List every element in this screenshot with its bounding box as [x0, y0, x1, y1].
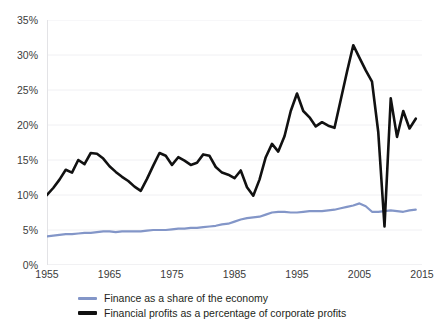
y-tick-label: 15% [17, 155, 38, 166]
line-chart-svg [47, 20, 422, 265]
x-tick-label: 1965 [98, 268, 121, 281]
chart-legend: Finance as a share of the economyFinanci… [78, 291, 418, 321]
x-tick-label: 2005 [348, 268, 371, 281]
y-tick-label: 20% [17, 120, 38, 131]
legend-swatch-icon [78, 297, 97, 300]
legend-swatch-icon [78, 311, 97, 315]
legend-item-label: Finance as a share of the economy [104, 292, 268, 305]
series-line-financial-profits [47, 45, 416, 226]
x-tick-label: 1975 [160, 268, 183, 281]
gridlines [47, 20, 422, 265]
x-tick-label: 1985 [223, 268, 246, 281]
y-tick-label: 30% [17, 50, 38, 61]
y-tick-label: 10% [17, 190, 38, 201]
y-tick-label: 35% [17, 15, 38, 26]
y-tick-label: 25% [17, 85, 38, 96]
x-tick-label: 1995 [285, 268, 308, 281]
plot-area [47, 20, 422, 265]
legend-item-label: Financial profits as a percentage of cor… [104, 307, 346, 320]
x-tick-label: 1955 [35, 268, 58, 281]
y-tick-label: 5% [23, 225, 38, 236]
legend-item: Finance as a share of the economy [78, 291, 418, 305]
series-line-finance-share [47, 203, 416, 236]
series-lines [47, 45, 416, 236]
legend-item: Financial profits as a percentage of cor… [78, 306, 418, 320]
x-axis: 1955196519751985199520052015 [47, 268, 422, 284]
x-tick-label: 2015 [410, 268, 433, 281]
y-axis: 0%5%10%15%20%25%30%35% [0, 20, 42, 265]
